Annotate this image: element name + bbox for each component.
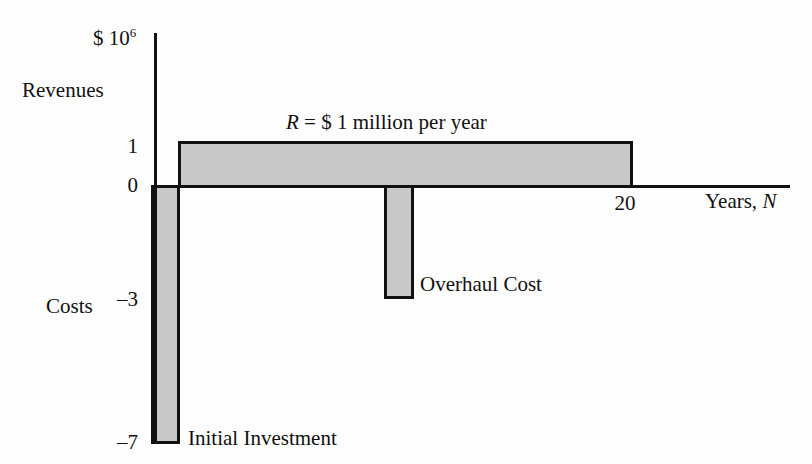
x-axis-label: Years, N: [705, 191, 776, 212]
overhaul-cost-annotation: Overhaul Cost: [420, 274, 542, 295]
x-axis-label-text: Years,: [705, 189, 762, 213]
y-axis-unit-exponent: 6: [130, 25, 137, 40]
y-tick-label-0: 0: [104, 175, 138, 196]
revenues-region-label: Revenues: [22, 80, 104, 101]
revenue-rate-symbol: R: [286, 110, 299, 134]
y-tick-label-neg7: –7: [100, 432, 138, 453]
bar-overhaul-cost: [386, 187, 413, 298]
x-axis-label-symbol: N: [762, 189, 776, 213]
initial-investment-annotation: Initial Investment: [188, 428, 337, 449]
cash-flow-diagram: $ 106 Revenues Costs 1 0 –3 –7 20 R = $ …: [0, 0, 812, 464]
x-tick-label-20: 20: [605, 193, 645, 214]
costs-region-label: Costs: [46, 296, 93, 317]
revenue-rate-text: = $ 1 million per year: [299, 110, 487, 134]
y-tick-label-1: 1: [104, 136, 138, 157]
y-axis-unit-label: $ 106: [93, 28, 136, 49]
revenue-rate-annotation: R = $ 1 million per year: [286, 112, 487, 133]
cash-flow-plot-area: [0, 0, 812, 464]
bar-annual-revenue: [180, 143, 632, 187]
y-tick-label-neg3: –3: [100, 289, 138, 310]
